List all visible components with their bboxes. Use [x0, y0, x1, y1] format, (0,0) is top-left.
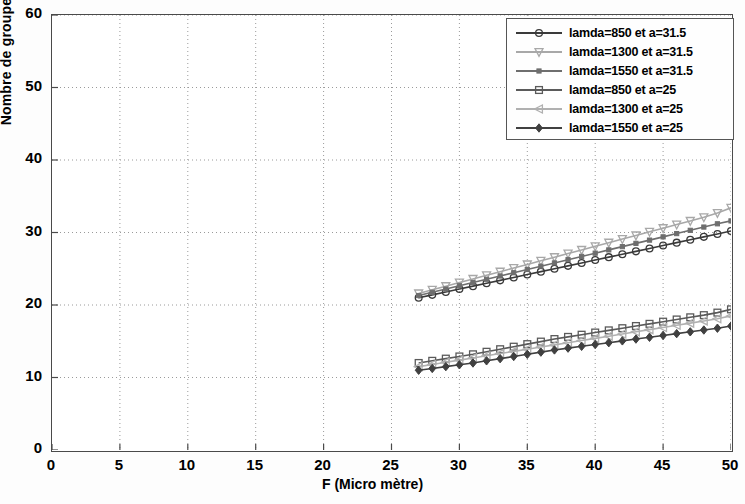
- legend-marker-icon: [513, 101, 565, 117]
- legend-item[interactable]: lamda=1550 et a=25: [513, 118, 733, 137]
- x-tick-label: 40: [571, 456, 617, 473]
- x-axis-label: F (Micro mètre): [0, 476, 745, 492]
- y-tick-label: 0: [0, 439, 42, 456]
- figure: Nombre de groupe de mode F (Micro mètre)…: [0, 0, 745, 504]
- y-tick-label: 60: [0, 4, 42, 21]
- x-tick-label: 5: [96, 456, 142, 473]
- legend-marker-icon: [513, 120, 565, 136]
- legend-marker-icon: [513, 82, 565, 98]
- x-tick-label: 50: [707, 456, 745, 473]
- legend-item[interactable]: lamda=1550 et a=31.5: [513, 61, 733, 80]
- y-tick-label: 40: [0, 149, 42, 166]
- x-tick-label: 0: [28, 456, 74, 473]
- legend-item[interactable]: lamda=1300 et a=31.5: [513, 42, 733, 61]
- legend-marker-icon: [513, 25, 565, 41]
- x-tick-label: 20: [300, 456, 346, 473]
- legend-item[interactable]: lamda=850 et a=31.5: [513, 23, 733, 42]
- y-tick-label: 10: [0, 367, 42, 384]
- y-axis-label: Nombre de groupe de mode: [0, 0, 14, 140]
- legend-label: lamda=1300 et a=31.5: [569, 45, 693, 59]
- x-tick-label: 10: [164, 456, 210, 473]
- x-tick-label: 15: [232, 456, 278, 473]
- legend-label: lamda=1300 et a=25: [569, 102, 683, 116]
- legend-label: lamda=1550 et a=31.5: [569, 64, 693, 78]
- y-tick-label: 50: [0, 77, 42, 94]
- x-tick-label: 30: [435, 456, 481, 473]
- x-tick-label: 45: [639, 456, 685, 473]
- legend-item[interactable]: lamda=850 et a=25: [513, 80, 733, 99]
- legend-item[interactable]: lamda=1300 et a=25: [513, 99, 733, 118]
- x-tick-label: 25: [368, 456, 414, 473]
- x-tick-label: 35: [503, 456, 549, 473]
- legend-label: lamda=850 et a=31.5: [569, 26, 686, 40]
- chart-legend: lamda=850 et a=31.5lamda=1300 et a=31.5l…: [506, 18, 734, 140]
- y-tick-label: 30: [0, 222, 42, 239]
- y-tick-label: 20: [0, 294, 42, 311]
- legend-label: lamda=850 et a=25: [569, 83, 676, 97]
- legend-marker-icon: [513, 63, 565, 79]
- legend-label: lamda=1550 et a=25: [569, 121, 683, 135]
- legend-marker-icon: [513, 44, 565, 60]
